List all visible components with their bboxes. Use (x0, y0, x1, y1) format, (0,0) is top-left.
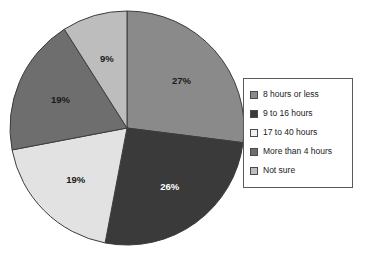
legend-swatch-icon (250, 148, 258, 156)
legend-swatch-icon (250, 129, 258, 137)
legend-swatch-icon (250, 167, 258, 175)
legend-item-9-to-16-hours[interactable]: 9 to 16 hours (250, 104, 352, 123)
legend-item-label: 9 to 16 hours (263, 109, 313, 118)
legend-item-8-hours-or-less[interactable]: 8 hours or less (250, 85, 352, 104)
legend-item-17-to-40-hours[interactable]: 17 to 40 hours (250, 123, 352, 142)
legend-item-not-sure[interactable]: Not sure (250, 161, 352, 180)
pie-slice-group (10, 11, 244, 245)
pie-slice-value-label: 19% (66, 174, 86, 185)
legend-swatch-icon (250, 91, 258, 99)
pie-slice-value-label: 9% (100, 53, 114, 64)
pie-chart-figure: 27%26%19%19%9% 8 hours or less 9 to 16 h… (0, 0, 366, 261)
legend-swatch-icon (250, 110, 258, 118)
pie-slice-value-label: 19% (51, 94, 71, 105)
legend-item-label: 8 hours or less (263, 90, 319, 99)
legend-item-more-than-4-hours[interactable]: More than 4 hours (250, 142, 352, 161)
legend-item-label: 17 to 40 hours (263, 128, 317, 137)
pie-svg: 27%26%19%19%9% (8, 10, 246, 250)
pie-slice-value-label: 27% (172, 75, 192, 86)
legend-item-label: Not sure (263, 166, 295, 175)
pie-chart-plot-area: 27%26%19%19%9% (8, 10, 246, 250)
pie-slice-value-label: 26% (160, 181, 180, 192)
legend-item-label: More than 4 hours (263, 147, 332, 156)
chart-legend: 8 hours or less 9 to 16 hours 17 to 40 h… (243, 78, 353, 188)
